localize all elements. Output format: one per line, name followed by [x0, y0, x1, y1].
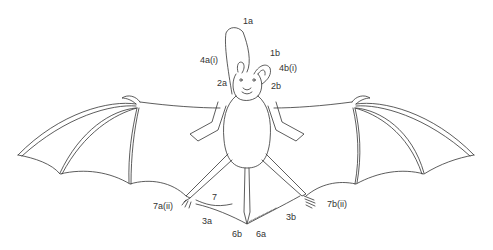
left-ear	[225, 28, 249, 94]
label-7a-ii: 7a(ii)	[153, 202, 173, 211]
bat-illustration	[0, 0, 493, 250]
left-foot	[182, 198, 191, 208]
label-4a-i: 4a(i)	[200, 56, 218, 65]
label-1a: 1a	[243, 17, 253, 26]
right-foot	[304, 196, 315, 208]
head	[233, 74, 262, 101]
right-ear	[254, 65, 271, 84]
label-6b: 6b	[232, 230, 242, 239]
right-thumb	[352, 96, 370, 104]
label-2b: 2b	[271, 82, 281, 91]
label-6a: 6a	[256, 230, 266, 239]
left-leg	[186, 154, 232, 198]
label-1b: 1b	[270, 49, 280, 58]
label-7b-ii: 7b(ii)	[327, 200, 347, 209]
right-wing-edge	[306, 155, 474, 196]
label-7: 7	[212, 193, 217, 202]
label-3a: 3a	[202, 217, 212, 226]
tail	[244, 168, 250, 224]
left-thumb	[122, 96, 140, 104]
left-wing-edge	[18, 155, 186, 196]
bat-diagram: 1a 4a(i) 1b 4b(i) 2a 2b 7 7a(ii) 3a 3b 7…	[0, 0, 493, 250]
body	[224, 96, 271, 168]
right-leg	[262, 154, 306, 196]
label-4b-i: 4b(i)	[279, 64, 297, 73]
label-3b: 3b	[286, 213, 296, 222]
label-2a: 2a	[217, 79, 227, 88]
